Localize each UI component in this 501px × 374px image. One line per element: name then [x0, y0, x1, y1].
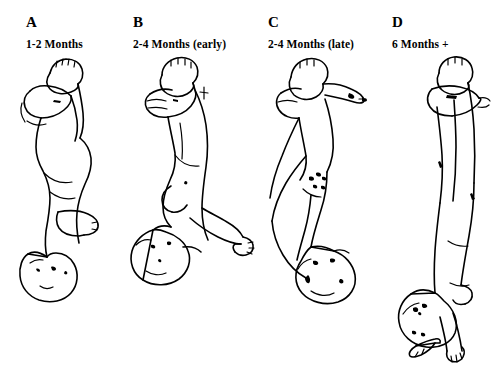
infant-vertical-suspension-2-4-months-early [128, 55, 263, 275]
figure-sheet: A 1-2 Months [0, 0, 501, 374]
panel-d-caption: 6 Months + [392, 38, 449, 50]
panel-a-drawing [0, 55, 128, 270]
panel-d-letter: D [392, 15, 403, 30]
infant-vertical-suspension-6-months-plus [388, 55, 501, 367]
panel-a-caption: 1-2 Months [26, 38, 83, 50]
panel-b: B 2-4 Months (early) [128, 0, 263, 374]
panel-c: C 2-4 Months (late) [263, 0, 388, 374]
panel-c-drawing [263, 55, 388, 290]
panel-c-caption: 2-4 Months (late) [268, 38, 354, 50]
infant-vertical-suspension-1-2-months [0, 55, 128, 270]
panel-b-caption: 2-4 Months (early) [133, 38, 226, 50]
panel-c-letter: C [268, 15, 279, 30]
panel-a-letter: A [26, 15, 37, 30]
panel-d: D 6 Months + [388, 0, 501, 374]
panel-a: A 1-2 Months [0, 0, 128, 374]
panel-b-drawing [128, 55, 263, 275]
infant-vertical-suspension-2-4-months-late [263, 55, 388, 290]
panel-b-letter: B [133, 15, 143, 30]
panel-d-drawing [388, 55, 501, 367]
